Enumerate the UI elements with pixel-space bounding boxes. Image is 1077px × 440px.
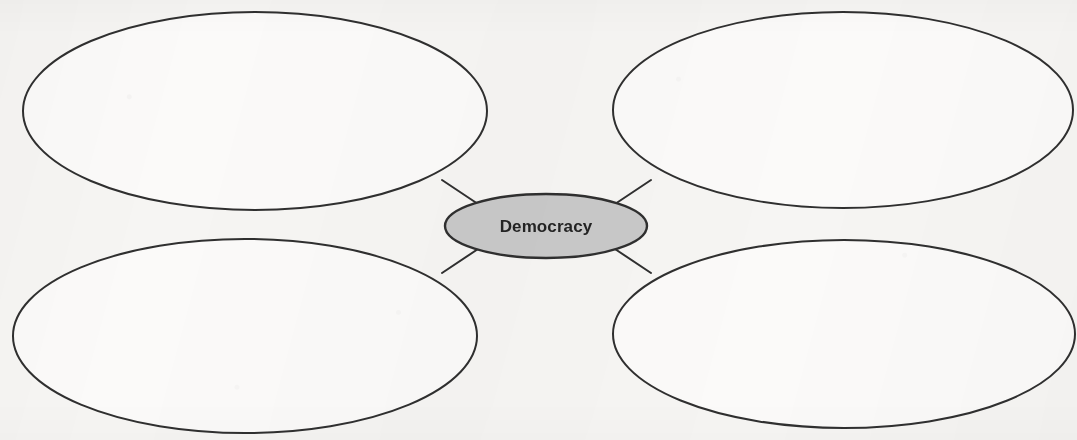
branch-ellipse-top-left[interactable] [23, 12, 487, 210]
branch-ellipse-top-right[interactable] [613, 12, 1073, 208]
diagram-canvas: Democracy [0, 0, 1077, 440]
branch-node-bottom-left[interactable] [13, 239, 477, 433]
branch-node-top-left[interactable] [23, 12, 487, 210]
branch-node-top-right[interactable] [613, 12, 1073, 208]
concept-web-diagram: Democracy [0, 0, 1077, 440]
connector-top-right [612, 180, 651, 206]
branch-node-bottom-right[interactable] [613, 240, 1075, 428]
connector-bottom-left [442, 247, 481, 273]
center-node-label: Democracy [500, 217, 593, 236]
branch-ellipse-bottom-right[interactable] [613, 240, 1075, 428]
branch-ellipse-bottom-left[interactable] [13, 239, 477, 433]
connector-bottom-right [612, 247, 651, 273]
center-node[interactable]: Democracy [445, 194, 647, 258]
